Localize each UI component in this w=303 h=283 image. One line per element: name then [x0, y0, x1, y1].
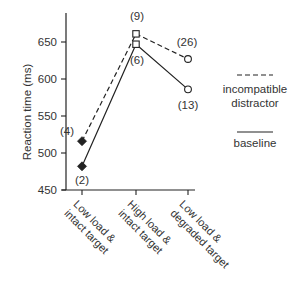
- series-layer: (4)(9)(26)(2)(6)(13): [60, 10, 198, 186]
- y-tick-label: 500: [38, 147, 57, 159]
- y-tick-label: 650: [38, 36, 57, 48]
- sample-size-annotation: (2): [75, 174, 89, 186]
- diamond-marker: [78, 162, 87, 171]
- circle-marker: [185, 56, 192, 63]
- sample-size-annotation: (26): [177, 36, 198, 48]
- reaction-time-chart: 450500550600650Reaction time (ms)Low loa…: [0, 0, 303, 283]
- square-marker: [133, 41, 139, 47]
- sample-size-annotation: (9): [130, 10, 144, 22]
- legend-label-incompatible-distractor: incompatible: [223, 83, 288, 95]
- x-category-label: High load &intact target: [116, 198, 174, 256]
- y-tick-label: 550: [38, 110, 57, 122]
- y-tick-label: 450: [38, 184, 57, 196]
- legend-label-incompatible-distractor: distractor: [231, 97, 278, 109]
- axes: 450500550600650Reaction time (ms)Low loa…: [21, 13, 241, 270]
- x-category-label: Low load &degraded target: [168, 198, 241, 271]
- sample-size-annotation: (4): [60, 125, 74, 137]
- diamond-marker: [78, 137, 87, 146]
- y-tick-label: 600: [38, 73, 57, 85]
- legend: incompatibledistractorbaseline: [223, 75, 288, 149]
- sample-size-annotation: (6): [130, 54, 144, 66]
- y-axis-title: Reaction time (ms): [21, 64, 33, 161]
- x-category-label: Low load &intact target: [62, 198, 120, 256]
- square-marker: [133, 31, 139, 37]
- circle-marker: [185, 86, 192, 93]
- series-line-incompatible-distractor: [82, 34, 188, 141]
- sample-size-annotation: (13): [178, 99, 199, 111]
- legend-label-baseline: baseline: [234, 137, 277, 149]
